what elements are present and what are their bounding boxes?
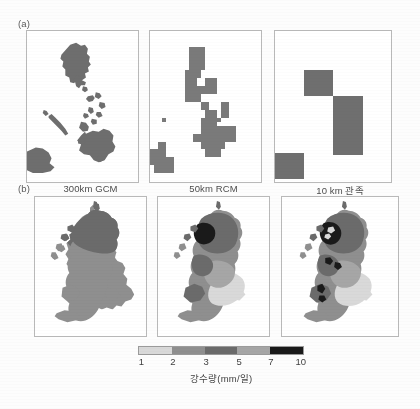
colorbar-tick-5: 5 bbox=[237, 356, 242, 367]
panel-b-label: (b) bbox=[18, 183, 30, 194]
colorbar-swatch-2-3 bbox=[172, 347, 205, 354]
colorbar-tick-7: 7 bbox=[268, 356, 273, 367]
uk-precip-50km-field bbox=[158, 197, 269, 336]
figure-canvas: (a) (b) bbox=[0, 0, 420, 409]
panel-a-label: (a) bbox=[18, 18, 30, 29]
colorbar-group: 1 2 3 5 7 10 강수량(mm/일) bbox=[138, 346, 304, 385]
colorbar-tick-2: 2 bbox=[170, 356, 175, 367]
philippines-50km-shape bbox=[150, 31, 261, 182]
colorbar-tick-1: 1 bbox=[139, 356, 144, 367]
uk-precip-10km-field bbox=[282, 197, 398, 336]
colorbar-ticks: 1 2 3 5 7 10 bbox=[138, 356, 304, 369]
colorbar-swatch-1-2 bbox=[139, 347, 172, 354]
panel-title-300km-gcm: 300km GCM bbox=[34, 183, 147, 194]
philippines-high-res-shape bbox=[27, 31, 138, 182]
map-philippines-50km-gridded bbox=[149, 30, 262, 183]
map-uk-precip-10km-observed bbox=[281, 196, 399, 337]
colorbar-swatch-3-5 bbox=[205, 347, 238, 354]
panel-title-10km-observed: 10 km 관족 bbox=[281, 183, 399, 197]
colorbar-caption: 강수량(mm/일) bbox=[138, 371, 304, 385]
map-philippines-300km-gridded bbox=[274, 30, 392, 183]
map-uk-precip-50km-rcm bbox=[157, 196, 270, 337]
philippines-300km-shape bbox=[275, 31, 391, 182]
panel-title-50km-rcm: 50km RCM bbox=[157, 183, 270, 194]
uk-precip-300km-field bbox=[35, 197, 146, 336]
colorbar-swatch-7-10 bbox=[270, 347, 303, 354]
colorbar-swatch-5-7 bbox=[237, 347, 270, 354]
colorbar bbox=[138, 346, 304, 355]
map-philippines-high-resolution bbox=[26, 30, 139, 183]
colorbar-tick-3: 3 bbox=[203, 356, 208, 367]
map-uk-precip-300km-gcm bbox=[34, 196, 147, 337]
colorbar-tick-10: 10 bbox=[295, 356, 306, 367]
